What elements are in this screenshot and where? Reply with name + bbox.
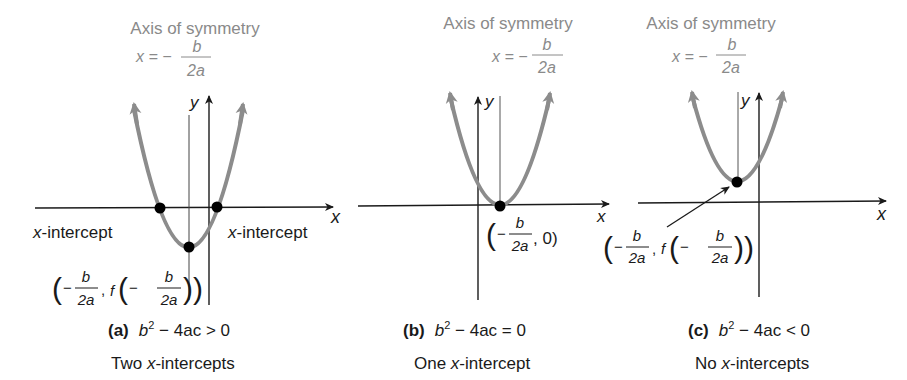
caption-c: (c)b2 − 4ac < 0 bbox=[688, 319, 810, 340]
svg-text:f: f bbox=[110, 282, 116, 299]
svg-text:x = −: x = − bbox=[491, 48, 528, 65]
vertex-label: ( − b 2a , f ( − b 2a )) bbox=[52, 268, 203, 308]
svg-text:x = −: x = − bbox=[135, 48, 172, 65]
y-axis-label: y bbox=[740, 91, 751, 110]
x-intercept-label-left: x-intercept bbox=[32, 223, 113, 242]
svg-text:(: ( bbox=[118, 272, 128, 305]
y-axis-label: y bbox=[189, 93, 200, 112]
x-axis-label-a: x bbox=[330, 207, 341, 227]
panel-a: Axis of symmetry x = − b 2a y x x-interc… bbox=[32, 19, 341, 373]
svg-text:2a: 2a bbox=[628, 249, 646, 266]
x-axis bbox=[35, 207, 333, 208]
svg-text:2a: 2a bbox=[721, 59, 740, 76]
svg-text:b: b bbox=[633, 227, 641, 244]
svg-text:b: b bbox=[728, 36, 737, 53]
svg-text:(: ( bbox=[486, 218, 496, 251]
vertex-point bbox=[184, 242, 195, 253]
svg-text:2a: 2a bbox=[160, 291, 178, 308]
svg-text:,: , bbox=[101, 281, 105, 298]
panel-c: Axis of symmetry x = − b 2a y x ( − b 2a… bbox=[603, 14, 887, 373]
parabola-discriminant-figure: Axis of symmetry x = − b 2a y x x-interc… bbox=[0, 0, 907, 380]
caption-a: (a)b2 − 4ac > 0 bbox=[108, 319, 230, 340]
svg-text:2a: 2a bbox=[186, 62, 205, 79]
caption-b: (b)b2 − 4ac = 0 bbox=[403, 319, 526, 340]
svg-text:−: − bbox=[129, 279, 138, 296]
svg-text:)): )) bbox=[734, 231, 754, 264]
svg-text:b: b bbox=[543, 36, 552, 53]
vertex-point bbox=[732, 177, 743, 188]
svg-text:b: b bbox=[193, 38, 202, 55]
svg-text:,: , bbox=[652, 240, 656, 257]
axis-of-symmetry-label: Axis of symmetry bbox=[443, 14, 573, 33]
svg-text:−: − bbox=[680, 238, 689, 255]
axis-formula: x = − b 2a bbox=[135, 38, 211, 79]
vertex-point bbox=[495, 201, 506, 212]
x-axis-label: x bbox=[876, 204, 887, 224]
axis-formula: x = − b 2a bbox=[491, 36, 563, 76]
x-axis-label: x bbox=[596, 207, 606, 226]
svg-text:2a: 2a bbox=[511, 237, 529, 254]
svg-text:)): )) bbox=[183, 272, 203, 305]
vertex-label: ( − b 2a , f ( − b 2a )) bbox=[603, 227, 754, 266]
svg-text:−: − bbox=[497, 225, 506, 242]
x-axis bbox=[638, 201, 886, 203]
axis-of-symmetry-label: Axis of symmetry bbox=[646, 14, 776, 33]
panel-b: Axis of symmetry x = − b 2a y x ( − b 2a… bbox=[358, 14, 609, 373]
svg-text:2a: 2a bbox=[77, 291, 95, 308]
x-intercept-point-left bbox=[155, 203, 166, 214]
vertex-pointer-arrow bbox=[667, 187, 729, 227]
description-c: No x-intercepts bbox=[695, 354, 809, 373]
svg-text:2a: 2a bbox=[711, 249, 729, 266]
description-a: Two x-intercepts bbox=[111, 354, 235, 373]
axis-formula: x = − b 2a bbox=[671, 36, 746, 76]
svg-text:, 0): , 0) bbox=[533, 229, 558, 248]
svg-text:−: − bbox=[614, 238, 623, 255]
svg-text:(: ( bbox=[669, 231, 679, 264]
svg-text:(: ( bbox=[52, 272, 62, 305]
svg-text:(: ( bbox=[603, 231, 613, 264]
svg-text:b: b bbox=[82, 268, 90, 285]
y-axis-label: y bbox=[484, 92, 495, 111]
x-intercept-point-right bbox=[212, 202, 223, 213]
svg-text:b: b bbox=[165, 268, 173, 285]
x-axis bbox=[358, 204, 609, 206]
x-intercept-label-right: x-intercept bbox=[227, 223, 308, 242]
svg-text:−: − bbox=[63, 279, 72, 296]
vertex-label: ( − b 2a , 0) bbox=[486, 214, 558, 254]
svg-text:b: b bbox=[516, 214, 524, 231]
svg-text:x = −: x = − bbox=[671, 48, 708, 65]
axis-of-symmetry-label: Axis of symmetry bbox=[130, 19, 260, 38]
description-b: One x-intercept bbox=[414, 354, 531, 373]
svg-text:2a: 2a bbox=[537, 59, 556, 76]
svg-text:b: b bbox=[716, 227, 724, 244]
svg-text:f: f bbox=[661, 240, 667, 257]
